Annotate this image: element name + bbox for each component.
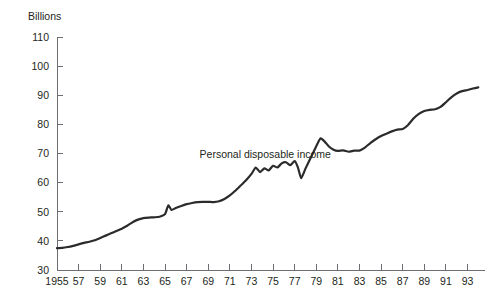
x-axis-tick-label: 87 <box>397 275 409 287</box>
x-axis-tick-label: 81 <box>332 275 344 287</box>
series-line-personal-disposable-income <box>57 87 478 248</box>
annotation-group: Personal disposable income <box>200 148 331 160</box>
x-axis-tick-label: 77 <box>289 275 301 287</box>
y-axis-title-group: Billions <box>28 10 61 22</box>
x-axis-tick-label: 61 <box>116 275 128 287</box>
series-annotation-label: Personal disposable income <box>200 148 331 160</box>
x-axis-tick-label: 73 <box>246 275 258 287</box>
x-axis-tick-label: 89 <box>418 275 430 287</box>
y-axis-tick-label: 30 <box>37 264 49 276</box>
x-axis-tick-label: 93 <box>462 275 474 287</box>
x-axis-tick-label: 1955 <box>45 275 69 287</box>
x-axis-tick-label: 65 <box>159 275 171 287</box>
y-axis-title: Billions <box>28 10 61 22</box>
y-axis-tick-label: 110 <box>32 31 49 43</box>
chart-container: Billions 30405060708090100110 1955575961… <box>0 0 502 301</box>
x-axis-tick-label: 59 <box>94 275 106 287</box>
x-axis-tick-label: 85 <box>375 275 387 287</box>
y-axis: 30405060708090100110 <box>31 31 63 276</box>
y-axis-tick-label: 80 <box>37 118 49 130</box>
y-axis-tick-label: 100 <box>31 60 49 72</box>
x-axis-tick-label: 83 <box>354 275 366 287</box>
x-axis-tick-label: 69 <box>202 275 214 287</box>
y-axis-tick-label: 50 <box>37 206 49 218</box>
y-axis-tick-label: 40 <box>37 235 49 247</box>
x-axis-tick-label: 71 <box>224 275 236 287</box>
x-axis-tick-label: 79 <box>310 275 322 287</box>
data-series-group <box>57 87 478 248</box>
x-axis: 1955575961636567697173757779818385878991… <box>45 264 485 287</box>
x-axis-tick-label: 75 <box>267 275 279 287</box>
y-axis-tick-label: 60 <box>37 176 49 188</box>
x-axis-tick-label: 91 <box>440 275 452 287</box>
y-axis-tick-label: 70 <box>37 147 49 159</box>
y-axis-tick-label: 90 <box>37 89 49 101</box>
x-axis-tick-label: 67 <box>181 275 193 287</box>
x-axis-tick-label: 63 <box>138 275 150 287</box>
x-axis-tick-label: 57 <box>73 275 85 287</box>
line-chart: Billions 30405060708090100110 1955575961… <box>0 0 502 301</box>
